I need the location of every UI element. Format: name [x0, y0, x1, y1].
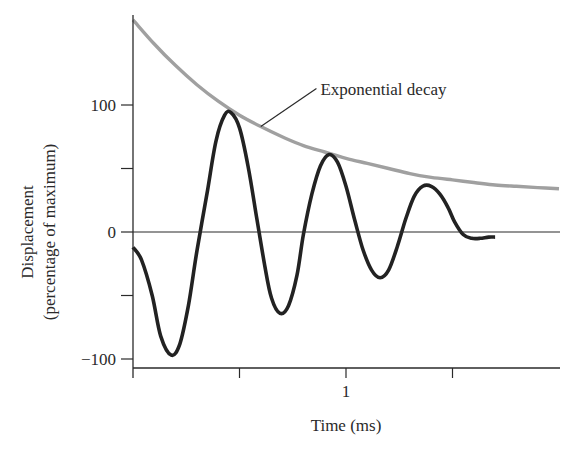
y-axis-title-line2: (percentage of maximum)	[40, 144, 59, 321]
decay-envelope-line	[133, 20, 559, 189]
y-tick-label: 0	[108, 223, 117, 242]
x-axis-title: Time (ms)	[311, 416, 382, 435]
x-ticks: 1	[240, 368, 453, 401]
y-tick-label: 100	[91, 96, 117, 115]
damped-oscillation-chart: −1000100 1 Time (ms) Displacement (perce…	[0, 0, 574, 456]
x-tick-label: 1	[342, 382, 351, 401]
annotation-pointer	[261, 88, 317, 126]
y-tick-label: −100	[81, 350, 116, 369]
axes	[133, 15, 560, 378]
annotation-label: Exponential decay	[320, 80, 447, 99]
plot-area	[133, 20, 559, 356]
y-ticks: −1000100	[81, 96, 133, 369]
y-axis-title-line1: Displacement	[18, 185, 37, 279]
